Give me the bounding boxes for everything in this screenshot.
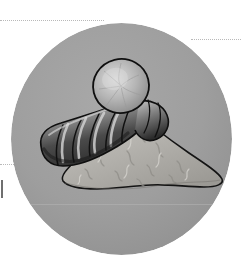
- horizon-rule: [26, 204, 218, 205]
- ginger-illustration-svg: [11, 23, 232, 255]
- ginger-medallion: [11, 23, 232, 255]
- illustration-canvas: Ginger rhizome with a mound of ground gi…: [0, 0, 241, 266]
- crop-mark-left: [1, 180, 3, 198]
- figure-caption: Ginger rhizome with a mound of ground gi…: [0, 0, 1, 1]
- guide-top-left-line: [0, 20, 104, 21]
